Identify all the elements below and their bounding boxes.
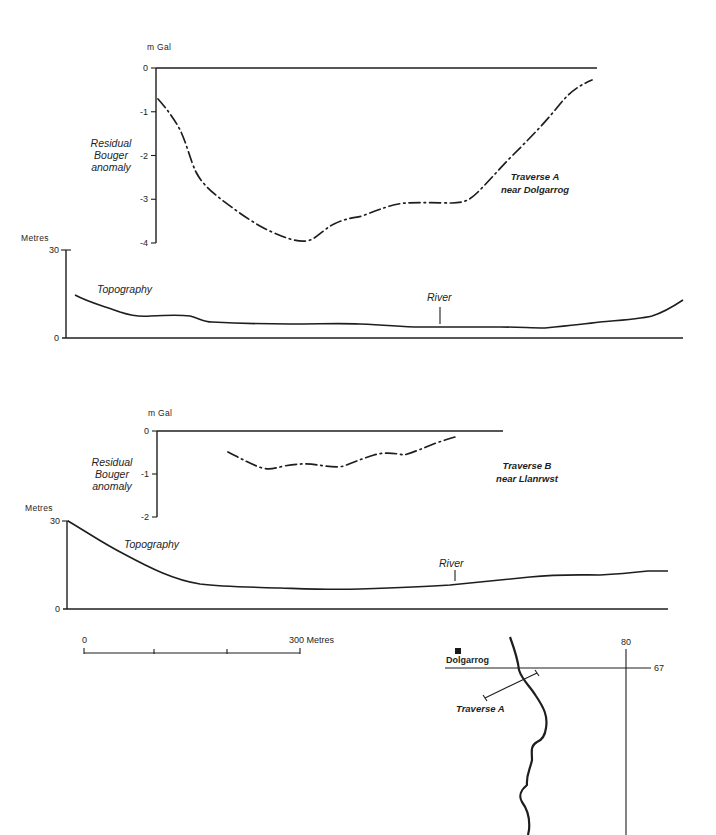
traverse-b-topography-curve xyxy=(68,521,668,589)
traverse-b-topo-label: Topography xyxy=(124,538,180,550)
traverse-b-river-label: River xyxy=(439,557,464,569)
traverse-b-tick-0: 0 xyxy=(144,426,149,436)
traverse-a-topo-tick-30: 30 xyxy=(49,245,59,255)
scale-bar: 0 300 Metres xyxy=(82,635,335,654)
map-traverse-a-label: Traverse A xyxy=(456,703,505,714)
map-northing-label: 67 xyxy=(654,663,664,673)
traverse-b-tick-m1: -1 xyxy=(141,469,149,479)
traverse-a-topo-tick-0: 0 xyxy=(54,333,59,343)
scale-bar-start-label: 0 xyxy=(82,635,87,645)
traverse-b-ylabel-line1: Residual xyxy=(92,456,134,468)
traverse-b-topo-unit: Metres xyxy=(25,503,53,513)
traverse-b-topography-panel: Metres 30 0 Topography River xyxy=(25,503,668,614)
map-town-label: Dolgarrog xyxy=(446,655,489,665)
traverse-a-tick-m4: -4 xyxy=(140,238,148,248)
location-map: 80 67 Dolgarrog Traverse A xyxy=(445,637,664,835)
traverse-b-gravity-panel: m Gal 0 -1 -2 Residual Bouger anomaly Tr… xyxy=(92,408,559,522)
traverse-a-ylabel-line3: anomaly xyxy=(91,161,131,173)
map-easting-label: 80 xyxy=(621,637,631,647)
traverse-a-gravity-panel: m Gal 0 -1 -2 -3 -4 Residual Bouger anom… xyxy=(91,42,597,248)
traverse-b-label-line2: near Llanrwst xyxy=(496,473,559,484)
traverse-a-ylabel-line2: Bouger xyxy=(94,149,128,161)
traverse-a-topography-curve xyxy=(75,295,683,328)
traverse-a-topo-label: Topography xyxy=(97,283,153,295)
traverse-a-gravity-unit: m Gal xyxy=(147,42,171,52)
map-river xyxy=(510,637,547,835)
traverse-a-tick-0: 0 xyxy=(143,63,148,73)
traverse-a-tick-m3: -3 xyxy=(140,194,148,204)
traverse-a-tick-m2: -2 xyxy=(140,151,148,161)
traverse-b-topo-tick-30: 30 xyxy=(50,516,60,526)
traverse-a-ylabel-line1: Residual xyxy=(91,137,133,149)
traverse-b-anomaly-curve xyxy=(228,437,455,469)
scale-bar-end-label: 300 Metres xyxy=(289,635,335,645)
traverse-b-ylabel-line2: Bouger xyxy=(95,468,129,480)
traverse-b-tick-m2: -2 xyxy=(141,512,149,522)
traverse-b-gravity-unit: m Gal xyxy=(148,408,172,418)
traverse-a-label-line1: Traverse A xyxy=(511,171,560,182)
figure-canvas: m Gal 0 -1 -2 -3 -4 Residual Bouger anom… xyxy=(0,0,716,835)
traverse-a-anomaly-curve xyxy=(158,80,592,241)
traverse-b-topo-tick-0: 0 xyxy=(55,604,60,614)
traverse-a-river-label: River xyxy=(427,291,452,303)
traverse-a-topography-panel: Metres 30 0 Topography River xyxy=(21,233,683,343)
traverse-b-ylabel-line3: anomaly xyxy=(92,480,132,492)
traverse-a-tick-m1: -1 xyxy=(140,107,148,117)
town-marker-icon xyxy=(455,648,461,654)
traverse-a-label-line2: near Dolgarrog xyxy=(501,184,569,195)
traverse-b-label-line1: Traverse B xyxy=(503,460,552,471)
traverse-a-topo-unit: Metres xyxy=(21,233,49,243)
